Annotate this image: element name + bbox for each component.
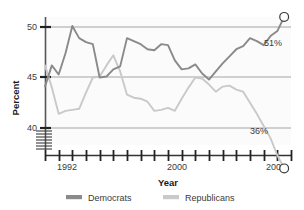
legend-label-democrats: Democrats	[88, 193, 132, 203]
endpoint-label-republicans: 36%	[250, 126, 268, 136]
line-chart: 50 45 40 Percent 1992 2000 2008 Year 51%…	[0, 0, 304, 210]
y-tick-label-45: 45	[27, 72, 37, 82]
legend-swatch-republicans	[163, 195, 179, 199]
legend-swatch-democrats	[66, 195, 82, 199]
x-axis-title: Year	[158, 177, 178, 188]
chart-container: 50 45 40 Percent 1992 2000 2008 Year 51%…	[0, 0, 304, 210]
y-tick-label-50: 50	[27, 22, 37, 32]
y-tick-label-40: 40	[27, 123, 37, 133]
legend-label-republicans: Republicans	[185, 193, 235, 203]
x-tick-label-2000: 2000	[167, 162, 187, 172]
chart-legend: Democrats Republicans	[66, 193, 235, 203]
x-tick-label-1992: 1992	[57, 162, 77, 172]
endpoint-marker-democrats	[280, 13, 289, 22]
endpoint-marker-republicans	[280, 164, 289, 173]
y-axis-title: Percent	[10, 80, 21, 116]
endpoint-label-democrats: 51%	[264, 38, 282, 48]
axis-break-hatch	[36, 131, 52, 149]
